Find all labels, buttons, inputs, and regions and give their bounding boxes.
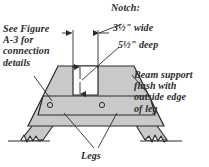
notch-depth-label: 5½" deep <box>118 39 158 50</box>
notch-title-label: Notch: <box>111 2 140 13</box>
connection-note-text: See Figure A-3 for connection details <box>3 23 50 68</box>
notch-detail-figure: See Figure A-3 for connection details No… <box>0 0 209 167</box>
bolt-right <box>99 102 104 107</box>
beam-support-note-text: Beam support flush with outside edge of … <box>134 69 193 114</box>
notch-width-label: 3½" wide <box>113 22 153 33</box>
legs-label: Legs <box>81 150 101 161</box>
bolt-left <box>47 102 52 107</box>
notch-cutout <box>73 66 98 95</box>
